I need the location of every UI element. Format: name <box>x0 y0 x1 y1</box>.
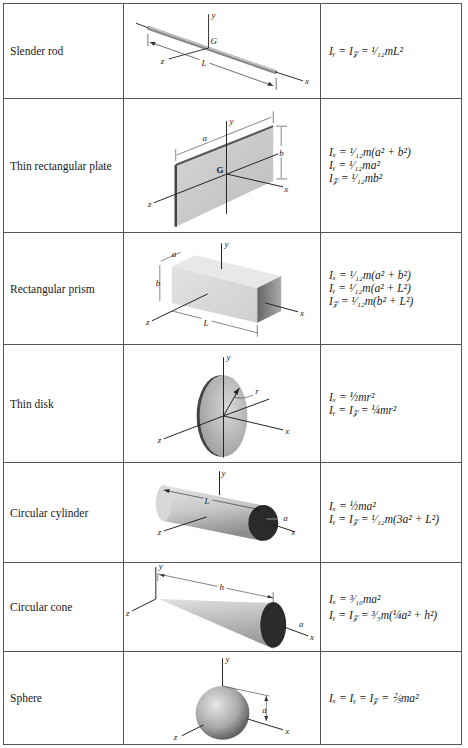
axis-label-y: y <box>211 10 216 20</box>
radius-label: a <box>262 705 267 715</box>
axis-label-z: z <box>157 527 162 537</box>
prism-figure: a y b z L x <box>124 233 321 344</box>
axis-label-y: y <box>228 116 233 126</box>
table-row: Slender rod y G z L x <box>3 3 462 99</box>
axis-label-x: x <box>284 726 289 736</box>
cone-figure: h y z a x <box>124 563 321 651</box>
height-label: b <box>279 148 284 158</box>
axis-label-y: y <box>158 563 163 571</box>
shape-name: Rectangular prism <box>3 233 124 344</box>
cylinder-figure: L y a z x <box>124 463 321 562</box>
height-label: h <box>220 582 225 592</box>
shape-name: Thin disk <box>3 345 124 462</box>
axis-label-y: y <box>225 352 230 362</box>
axis-label-x: x <box>284 426 289 436</box>
table-row: Circular cone h y z a x <box>3 563 462 652</box>
formula-cell: Iₓ = ³⁄₁₀ma² Iᵧ = I𝓏 = ³⁄₅m(¼a² + h²) <box>321 563 462 651</box>
width-label: a <box>203 133 208 143</box>
axis-label-y: y <box>224 654 229 664</box>
formula-cell: Iₓ = ½ma² Iᵧ = I𝓏 = ¹⁄₁₂m(3a² + L²) <box>321 463 462 562</box>
thin-plate-figure: a y b G x z <box>124 99 321 232</box>
table-row: Circular cylinder L y a z x <box>3 463 462 563</box>
formula-line: Iₓ = ½mr² <box>329 391 374 404</box>
shape-name: Sphere <box>3 652 124 744</box>
formula-line: Iᵧ = I𝓏 = ³⁄₅m(¼a² + h²) <box>329 609 437 622</box>
table-row: Thin disk y r z x Iₓ = ½mr² Iᵧ = I𝓏 <box>3 345 462 463</box>
table-row: Rectangular prism a y b z <box>3 233 462 345</box>
thin-plate-diagram: a y b G x z <box>124 99 320 232</box>
formula-line: Iₓ = ½ma² <box>329 500 376 513</box>
formula-cell: Iₓ = Iᵧ = I𝓏 = ⅖ma² <box>321 652 462 744</box>
table-row: Sphere y a z x Iₓ = Iᵧ = I𝓏 = ⅖ma² <box>3 652 462 745</box>
formula-line: Iᵧ = ¹⁄₁₂ma² <box>329 159 380 172</box>
formula-line: Iₓ = ¹⁄₁₂m(a² + b²) <box>329 269 411 282</box>
formula-line: Iᵧ = I𝓏 = ¹⁄₁₂m(3a² + L²) <box>329 513 439 526</box>
axis-label-z: z <box>125 608 130 618</box>
axis-label-y: y <box>221 468 226 478</box>
radius-label: a <box>299 619 304 629</box>
length-label: L <box>203 318 209 328</box>
slender-rod-diagram: y G z L x <box>124 4 320 99</box>
sphere-figure: y a z x <box>124 652 321 744</box>
formula-line: Iᵧ = I𝓏 = ¼mr² <box>329 404 396 417</box>
formula-line: I𝓏 = ¹⁄₁₂mb² <box>329 172 382 185</box>
thin-disk-figure: y r z x <box>124 345 321 462</box>
formula-cell: Iₓ = ½mr² Iᵧ = I𝓏 = ¼mr² <box>321 345 462 462</box>
formula-cell: Iₓ = ¹⁄₁₂m(a² + b²) Iᵧ = ¹⁄₁₂ma² I𝓏 = ¹⁄… <box>321 99 462 232</box>
formula-line: I𝓏 = ¹⁄₁₂m(b² + L²) <box>329 295 413 308</box>
cone-diagram: h y z a x <box>124 563 320 651</box>
length-label: L <box>204 496 210 506</box>
shape-name: Circular cylinder <box>3 463 124 562</box>
axis-label-x: x <box>309 632 314 642</box>
axis-label-y: y <box>223 239 228 249</box>
formula-line: Iₓ = ¹⁄₁₂m(a² + b²) <box>329 146 411 159</box>
formula-cell: Iᵧ = I𝓏 = ¹⁄₁₂mL² <box>321 4 462 98</box>
shape-name: Slender rod <box>3 4 124 98</box>
table-row: Thin rectangular plate a y b <box>3 99 462 233</box>
slender-rod-figure: y G z L x <box>124 4 321 98</box>
shape-name: Circular cone <box>3 563 124 651</box>
axis-label-x: x <box>299 308 304 318</box>
axis-label-x: x <box>304 75 309 85</box>
thin-disk-diagram: y r z x <box>124 345 320 462</box>
length-label: L <box>201 57 207 67</box>
axis-label-z: z <box>173 732 178 742</box>
axis-label-x: x <box>283 184 288 194</box>
height-label: b <box>156 278 161 288</box>
formula-cell: Iₓ = ¹⁄₁₂m(a² + b²) Iᵧ = ¹⁄₁₂m(a² + L²) … <box>321 233 462 344</box>
moments-of-inertia-table: Slender rod y G z L x <box>3 3 462 745</box>
width-label: a <box>172 249 177 259</box>
axis-label-x: x <box>290 527 295 537</box>
centroid-label: G <box>211 36 218 46</box>
shape-name: Thin rectangular plate <box>3 99 124 232</box>
axis-label-z: z <box>157 435 162 445</box>
centroid-label: G <box>217 165 224 175</box>
formula-line: Iₓ = Iᵧ = I𝓏 = ⅖ma² <box>329 692 418 705</box>
axis-label-z: z <box>145 317 150 327</box>
formula-line: Iᵧ = ¹⁄₁₂m(a² + L²) <box>329 282 411 295</box>
formula-line: Iᵧ = I𝓏 = ¹⁄₁₂mL² <box>329 45 403 58</box>
axis-label-z: z <box>160 55 165 65</box>
radius-label: r <box>255 386 259 396</box>
axis-label-z: z <box>147 199 152 209</box>
prism-diagram: a y b z L x <box>124 233 320 344</box>
formula-line: Iₓ = ³⁄₁₀ma² <box>329 593 380 606</box>
cylinder-diagram: L y a z x <box>124 463 320 562</box>
sphere-diagram: y a z x <box>124 652 320 744</box>
radius-label: a <box>283 513 288 523</box>
